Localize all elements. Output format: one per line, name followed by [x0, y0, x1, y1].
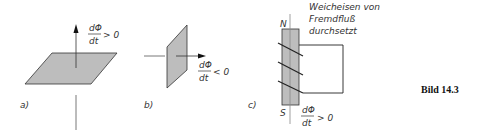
annotation-line: durchsetzt	[309, 26, 357, 36]
surface-horizontal	[25, 53, 117, 84]
panel-b: dΦ dt < 0 b)	[144, 25, 229, 110]
soft-iron-core	[282, 29, 299, 105]
formula-denominator: dt	[302, 118, 312, 128]
formula-relation: < 0	[213, 67, 229, 77]
panel-label: a)	[20, 100, 29, 110]
pole-north: N	[280, 19, 287, 29]
surface-vertical	[167, 25, 187, 88]
formula-numerator: dΦ	[199, 60, 212, 70]
formula-numerator: dΦ	[302, 105, 315, 115]
figure-caption: Bild 14.3	[421, 84, 459, 95]
formula-relation: > 0	[103, 30, 119, 40]
arrow-up-icon	[74, 24, 79, 33]
formula-relation: > 0	[317, 113, 333, 123]
annotation-line: Fremdfluß	[309, 14, 355, 24]
annotation-line: Weicheisen von	[309, 2, 380, 12]
panel-label: b)	[144, 100, 153, 110]
panel-c: N S dΦ dt > 0 c) Weicheisen von Fremdflu…	[248, 2, 380, 128]
conductor-loop	[299, 45, 343, 93]
formula-denominator: dt	[199, 73, 209, 83]
pole-south: S	[280, 108, 286, 118]
figure-canvas: dΦ dt > 0 a) dΦ dt < 0 b) N S dΦ dt > 0 …	[0, 0, 489, 137]
formula-denominator: dt	[89, 36, 99, 46]
formula-numerator: dΦ	[89, 23, 102, 33]
panel-a: dΦ dt > 0 a)	[20, 23, 119, 130]
panel-label: c)	[248, 100, 256, 110]
arrow-right-icon	[198, 54, 206, 59]
